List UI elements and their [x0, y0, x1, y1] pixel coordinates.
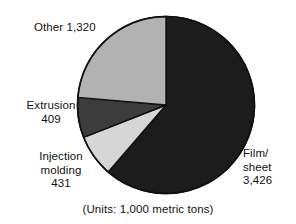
slice-label-film-sheet: Film/ sheet 3,426 [243, 147, 272, 188]
slice-label-other: Other 1,320 [34, 21, 96, 35]
pie-slice-group [78, 17, 255, 194]
slice-label-injection-molding: Injection molding 431 [21, 150, 101, 191]
pie-chart-figure: Other 1,320 Extrusion 409 Injection mold… [0, 0, 296, 224]
chart-caption: (Units: 1,000 metric tons) [0, 203, 296, 215]
slice-label-extrusion: Extrusion 409 [13, 99, 89, 126]
